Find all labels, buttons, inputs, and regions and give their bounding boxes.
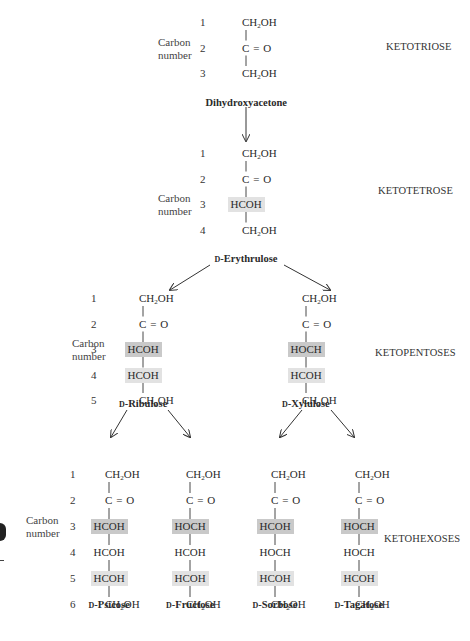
arrow-ribulose-to-fructose xyxy=(168,410,190,437)
carbon-label-line2: number xyxy=(158,205,192,217)
carbon-number-2: 2 xyxy=(91,318,97,331)
formula-group: HCOH xyxy=(91,545,128,560)
carbon-number-2: 2 xyxy=(200,173,206,186)
sugar-name: D-Xylulose xyxy=(282,397,330,411)
sugar-name-text: -Psicose xyxy=(94,599,130,610)
formula-group: HCOH xyxy=(125,368,162,383)
formula-group: CH2OH xyxy=(239,146,280,161)
formula-group: HCOH xyxy=(172,545,209,560)
carbon-number-2: 2 xyxy=(200,42,206,55)
sugar-name: Dihydroxyacetone xyxy=(206,96,287,109)
carbon-number-label: Carbonnumber xyxy=(158,192,192,218)
sugar-name-text: -Xylulose xyxy=(288,398,330,409)
sugar-name: D-Tagatose xyxy=(335,598,384,612)
formula-group: HCOH xyxy=(288,368,325,383)
carbon-label-line2: number xyxy=(158,49,192,61)
sugar-name: D-Sorbose xyxy=(253,598,298,612)
carbon-number-4: 4 xyxy=(70,546,76,559)
carbon-number-1: 1 xyxy=(91,292,97,305)
ketose-family-diagram: CH2OH1C=O2CH2OH3CarbonnumberDihydroxyace… xyxy=(0,0,470,641)
formula-group: HOCH xyxy=(341,545,378,560)
carbon-number-5: 5 xyxy=(91,394,97,407)
class-label-ketotetrose: KETOTETROSE xyxy=(378,184,453,197)
formula-group: HCOH xyxy=(341,571,378,586)
sugar-name: D-Psicose xyxy=(89,598,130,612)
carbon-number-1: 1 xyxy=(200,16,206,29)
formula-group: HOCH xyxy=(341,519,378,534)
arrow-ribulose-to-psicose xyxy=(111,410,127,437)
carbon-label-line1: Carbon xyxy=(72,337,104,349)
sugar-name-text: Dihydroxyacetone xyxy=(206,97,287,108)
formula-group: CH2OH xyxy=(136,291,177,306)
class-label-ketohexoses: KETOHEXOSES xyxy=(384,532,460,545)
carbon-label-line2: number xyxy=(72,350,106,362)
formula-group: HCOH xyxy=(172,571,209,586)
sugar-name: D-Fructose xyxy=(166,598,214,612)
formula-group: HOCH xyxy=(288,342,325,357)
sugar-name-text: -Ribulose xyxy=(125,398,168,409)
formula-group: HOCH xyxy=(172,519,209,534)
carbon-label-line1: Carbon xyxy=(158,36,190,48)
formula-group: CH2OH xyxy=(239,66,280,81)
class-label-ketopentoses: KETOPENTOSES xyxy=(375,346,456,359)
arrow-xylulose-to-tagatose xyxy=(331,410,354,437)
formula-group: HCOH xyxy=(125,342,162,357)
formula-group: C=O xyxy=(352,493,387,508)
formula-group: HOCH xyxy=(257,545,294,560)
formula-group: C=O xyxy=(299,317,334,332)
formula-group: HCOH xyxy=(257,519,294,534)
page-edge-tick xyxy=(0,560,4,561)
formula-group: CH2OH xyxy=(239,223,280,238)
formula-group: HCOH xyxy=(257,571,294,586)
sugar-name-text: -Sorbose xyxy=(258,599,297,610)
carbon-number-1: 1 xyxy=(200,147,206,160)
formula-group: C=O xyxy=(136,317,171,332)
formula-group: C=O xyxy=(183,493,218,508)
carbon-number-4: 4 xyxy=(200,224,206,237)
formula-group: CH2OH xyxy=(239,15,280,30)
carbon-number-label: Carbonnumber xyxy=(72,337,106,363)
arrow-erythrulose-to-ribulose xyxy=(170,265,210,290)
formula-group: C=O xyxy=(239,41,274,56)
formula-group: CH2OH xyxy=(352,467,393,482)
sugar-name-text: -Fructose xyxy=(172,599,215,610)
formula-group: C=O xyxy=(268,493,303,508)
sugar-name-text: -Erythrulose xyxy=(220,253,277,264)
formula-group: HCOH xyxy=(91,571,128,586)
class-label-ketotriose: KETOTRIOSE xyxy=(386,40,452,53)
carbon-label-line1: Carbon xyxy=(26,514,58,526)
carbon-number-5: 5 xyxy=(70,572,76,585)
formula-group: CH2OH xyxy=(183,467,224,482)
sugar-name: D-Erythrulose xyxy=(215,252,278,266)
sugar-name-text: -Tagatose xyxy=(340,599,383,610)
carbon-number-3: 3 xyxy=(200,67,206,80)
carbon-number-1: 1 xyxy=(70,468,76,481)
formula-group: CH2OH xyxy=(299,291,340,306)
carbon-number-6: 6 xyxy=(70,598,76,611)
arrow-erythrulose-to-xylulose xyxy=(284,265,330,290)
carbon-number-label: Carbonnumber xyxy=(158,36,192,62)
carbon-number-4: 4 xyxy=(91,369,97,382)
carbon-number-label: Carbonnumber xyxy=(26,514,60,540)
carbon-number-2: 2 xyxy=(70,494,76,507)
formula-group: HCOH xyxy=(228,197,265,212)
sugar-name: D-Ribulose xyxy=(119,397,167,411)
formula-group: CH2OH xyxy=(102,467,143,482)
carbon-number-3: 3 xyxy=(200,198,206,211)
formula-group: HCOH xyxy=(91,519,128,534)
formula-group: C=O xyxy=(102,493,137,508)
arrow-xylulose-to-sorbose xyxy=(280,410,302,437)
formula-group: CH2OH xyxy=(268,467,309,482)
carbon-label-line2: number xyxy=(26,527,60,539)
formula-group: C=O xyxy=(239,172,274,187)
carbon-number-3: 3 xyxy=(70,520,76,533)
carbon-label-line1: Carbon xyxy=(158,192,190,204)
